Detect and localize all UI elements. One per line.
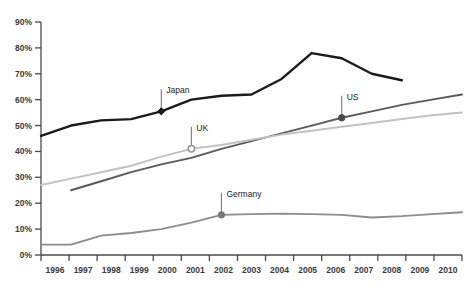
x-tick-label-1999: 1999 <box>130 265 149 275</box>
line-chart: 0%10%20%30%40%50%60%70%80%90%19961997199… <box>0 0 469 289</box>
y-tick-label-60%: 60% <box>15 95 32 105</box>
x-tick-label-2007: 2007 <box>354 265 373 275</box>
x-tick-label-2003: 2003 <box>242 265 261 275</box>
series-line-uk <box>41 113 462 185</box>
x-tick-label-2009: 2009 <box>410 265 429 275</box>
annotation-marker-us <box>339 115 345 121</box>
x-tick-label-2000: 2000 <box>158 265 177 275</box>
y-tick-label-30%: 30% <box>15 172 32 182</box>
x-tick-label-1997: 1997 <box>74 265 93 275</box>
annotation-marker-germany <box>218 212 224 218</box>
annotation-label-uk: UK <box>196 123 208 133</box>
y-tick-label-50%: 50% <box>15 121 32 131</box>
annotation-label-us: US <box>347 92 359 102</box>
series-line-germany <box>41 212 462 244</box>
y-tick-label-20%: 20% <box>15 198 32 208</box>
chart-plot-area: 0%10%20%30%40%50%60%70%80%90%19961997199… <box>0 0 469 289</box>
x-tick-label-2005: 2005 <box>298 265 317 275</box>
x-tick-label-1996: 1996 <box>46 265 65 275</box>
y-tick-label-40%: 40% <box>15 146 32 156</box>
x-tick-label-2004: 2004 <box>270 265 289 275</box>
x-tick-label-2008: 2008 <box>382 265 401 275</box>
x-tick-label-1998: 1998 <box>102 265 121 275</box>
x-tick-label-2010: 2010 <box>439 265 458 275</box>
y-tick-label-10%: 10% <box>15 224 32 234</box>
annotation-marker-japan <box>158 108 165 115</box>
series-line-us <box>71 94 462 190</box>
y-tick-label-80%: 80% <box>15 43 32 53</box>
annotation-label-germany: Germany <box>226 189 262 199</box>
y-tick-label-90%: 90% <box>15 17 32 27</box>
y-tick-label-70%: 70% <box>15 69 32 79</box>
annotation-marker-uk <box>188 146 194 152</box>
x-tick-label-2006: 2006 <box>326 265 345 275</box>
x-tick-label-2001: 2001 <box>186 265 205 275</box>
annotation-label-japan: Japan <box>166 85 189 95</box>
x-tick-label-2002: 2002 <box>214 265 233 275</box>
y-tick-label-0%: 0% <box>20 250 33 260</box>
